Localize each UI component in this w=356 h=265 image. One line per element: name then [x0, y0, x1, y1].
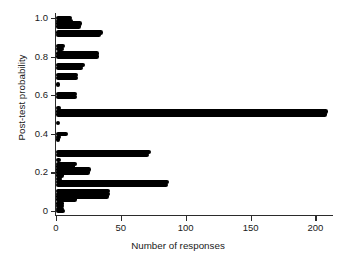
x-axis-label: Number of responses [0, 240, 356, 251]
y-tick [51, 172, 56, 173]
bar [56, 137, 60, 141]
y-axis-line [55, 13, 56, 216]
bar [56, 76, 78, 80]
x-tick-label: 0 [53, 223, 58, 233]
x-tick-label: 200 [307, 223, 323, 233]
x-tick [121, 216, 122, 221]
x-axis-line [55, 215, 333, 216]
bar [56, 24, 81, 28]
y-tick-label: 0 [43, 206, 48, 216]
x-tick [186, 216, 187, 221]
bar [56, 153, 149, 157]
bar [56, 66, 83, 70]
bar [56, 47, 64, 51]
bar [56, 82, 60, 86]
x-tick-label: 100 [178, 223, 194, 233]
plot-area [56, 14, 352, 215]
x-tick-label: 50 [116, 223, 127, 233]
y-tick [51, 57, 56, 58]
y-tick-label: 1.0 [35, 13, 48, 23]
bar [56, 121, 60, 125]
bar [56, 95, 77, 99]
y-tick [51, 211, 56, 212]
bar [56, 112, 327, 116]
x-tick [56, 216, 57, 221]
y-tick-label: 0.2 [35, 167, 48, 177]
y-tick-label: 0.8 [35, 52, 48, 62]
y-tick [51, 134, 56, 135]
bar [56, 209, 65, 213]
y-tick-label: 0.6 [35, 90, 48, 100]
x-tick-label: 150 [243, 223, 259, 233]
y-axis-label: Post-test probability [16, 28, 27, 168]
bar [56, 183, 168, 187]
y-tick [51, 18, 56, 19]
chart-figure: 00.20.40.60.81.0 050100150200 Number of … [0, 0, 356, 265]
x-tick [251, 216, 252, 221]
bar [56, 33, 101, 37]
bar [56, 54, 99, 58]
y-tick [51, 95, 56, 96]
y-tick-label: 0.4 [35, 129, 48, 139]
x-tick [315, 216, 316, 221]
